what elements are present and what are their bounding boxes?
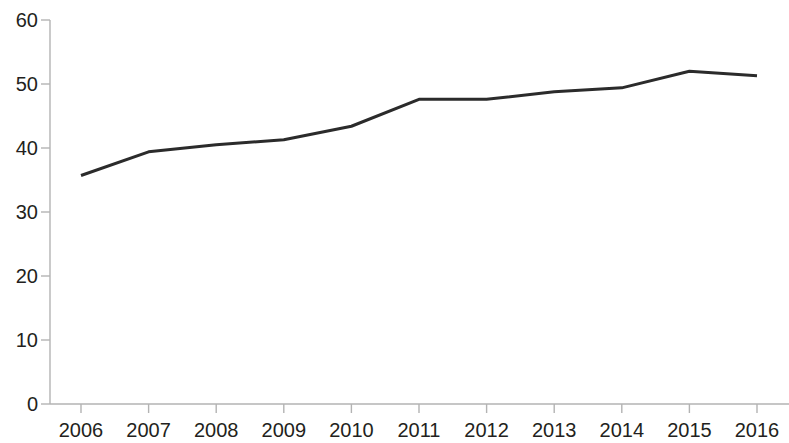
chart-canvas [0, 0, 789, 443]
y-axis-tick-label: 30 [16, 202, 38, 222]
y-axis [41, 20, 50, 404]
line-chart: 0102030405060 20062007200820092010201120… [0, 0, 789, 443]
x-axis-tick-label: 2016 [717, 420, 789, 440]
y-axis-tick-label: 50 [16, 74, 38, 94]
y-axis-tick-label: 40 [16, 138, 38, 158]
x-axis [50, 404, 789, 413]
data-line [81, 71, 757, 175]
y-axis-tick-label: 10 [16, 330, 38, 350]
data-series-group [81, 71, 757, 175]
y-axis-tick-label: 60 [16, 10, 38, 30]
y-axis-tick-label: 20 [16, 266, 38, 286]
y-axis-tick-label: 0 [27, 394, 38, 414]
